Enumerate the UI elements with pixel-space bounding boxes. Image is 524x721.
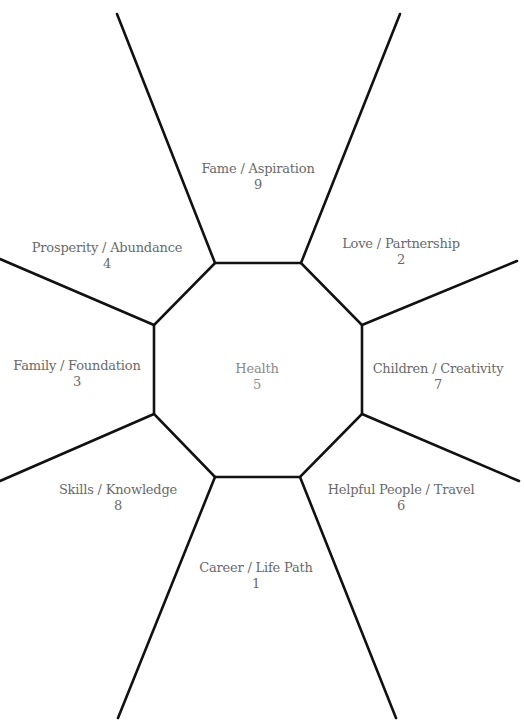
area-helpful-name: Helpful People / Travel	[328, 482, 475, 497]
divider-top-right	[301, 14, 400, 263]
area-health-name: Health	[235, 361, 278, 376]
divider-lower-right	[362, 414, 519, 481]
area-children: Children / Creativity 7	[373, 361, 504, 392]
area-health: Health 5	[235, 361, 278, 392]
area-skills: Skills / Knowledge 8	[59, 482, 177, 513]
area-fame: Fame / Aspiration 9	[201, 161, 314, 192]
area-skills-name: Skills / Knowledge	[59, 482, 177, 497]
area-children-number: 7	[373, 377, 504, 392]
area-prosperity-name: Prosperity / Abundance	[32, 240, 183, 255]
divider-top-left	[117, 14, 215, 263]
area-prosperity: Prosperity / Abundance 4	[32, 240, 183, 271]
area-prosperity-number: 4	[32, 256, 183, 271]
area-skills-number: 8	[59, 498, 177, 513]
area-family-name: Family / Foundation	[13, 358, 140, 373]
area-career-name: Career / Life Path	[199, 560, 313, 575]
area-fame-number: 9	[201, 177, 314, 192]
area-career-number: 1	[199, 576, 313, 591]
area-helpful-number: 6	[328, 498, 475, 513]
area-career: Career / Life Path 1	[199, 560, 313, 591]
divider-upper-right	[362, 261, 517, 325]
area-helpful: Helpful People / Travel 6	[328, 482, 475, 513]
divider-bottom-right	[300, 477, 396, 718]
area-love: Love / Partnership 2	[342, 236, 460, 267]
area-children-name: Children / Creativity	[373, 361, 504, 376]
area-fame-name: Fame / Aspiration	[201, 161, 314, 176]
area-health-number: 5	[235, 377, 278, 392]
divider-lower-left	[0, 414, 154, 481]
area-love-number: 2	[342, 252, 460, 267]
area-family: Family / Foundation 3	[13, 358, 140, 389]
divider-bottom-left	[118, 477, 215, 718]
area-love-name: Love / Partnership	[342, 236, 460, 251]
area-family-number: 3	[13, 374, 140, 389]
